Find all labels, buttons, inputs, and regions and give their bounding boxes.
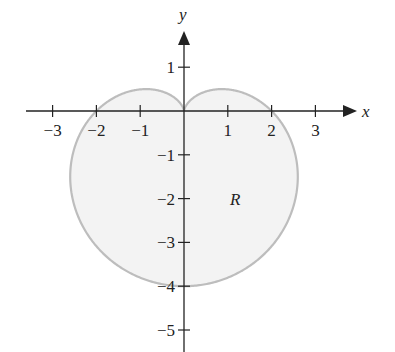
x-tick-label: 1	[224, 121, 233, 140]
y-tick-label: −1	[157, 146, 175, 165]
x-axis-label: x	[361, 102, 370, 121]
x-tick-label: −1	[131, 121, 149, 140]
y-tick-label: −2	[157, 190, 175, 209]
y-tick-label: −5	[157, 321, 175, 340]
y-axis-arrow-icon	[178, 31, 190, 45]
y-tick-label: 1	[167, 58, 176, 77]
region-label: R	[229, 190, 241, 209]
y-axis-label: y	[177, 5, 187, 24]
y-tick-label: −3	[157, 233, 175, 252]
x-tick-label: 2	[267, 121, 276, 140]
x-axis-arrow-icon	[343, 105, 357, 117]
x-tick-label: −3	[44, 121, 62, 140]
y-tick-label: −4	[157, 277, 176, 296]
x-tick-label: −2	[87, 121, 105, 140]
cardioid-plot: x y R −3−2−1123 1−1−2−3−4−5	[0, 0, 395, 352]
x-tick-label: 3	[311, 121, 320, 140]
